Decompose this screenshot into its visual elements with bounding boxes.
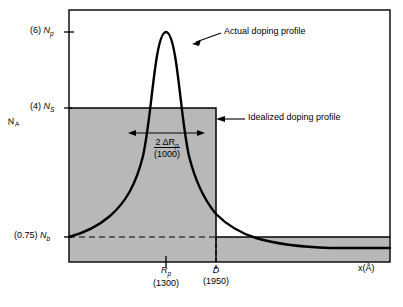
actual-profile-leader: [192, 33, 221, 46]
figure-container: (6) Np (4) NS (0.75) Nb NA Rp (1300) D (…: [0, 0, 403, 307]
doping-profile-chart: [0, 0, 403, 307]
idealized-profile-fill: [69, 108, 216, 262]
y-axis-title: NA: [7, 116, 20, 129]
y-tick-label-np: (6) Np: [30, 26, 54, 37]
y-tick-label-nb: (0.75) Nb: [14, 231, 50, 242]
idealized-profile-leader: [216, 116, 245, 122]
background-level-fill: [216, 237, 390, 262]
x-tick-label-rp: Rp (1300): [140, 265, 192, 288]
idealized-profile-label: Idealized doping profile: [248, 113, 341, 122]
x-tick-label-d: D (1950): [190, 265, 242, 287]
actual-profile-label: Actual doping profile: [224, 27, 306, 36]
x-axis-title: x(Å): [358, 264, 375, 273]
width-marker-label: 2 ΔRp (1000): [133, 137, 201, 159]
y-tick-label-ns: (4) NS: [30, 102, 54, 113]
